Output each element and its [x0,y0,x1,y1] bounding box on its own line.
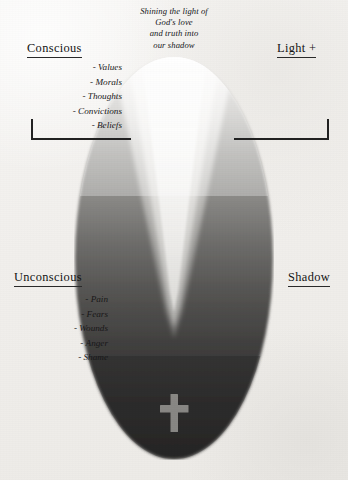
heading-light-label: Light + [277,41,316,58]
bracket-right [234,119,329,141]
heading-unconscious: Unconscious [14,270,82,287]
caption-line-3: and truth into [106,28,242,39]
heading-unconscious-label: Unconscious [14,270,82,287]
list-item: - Shame [0,350,108,365]
list-item: - Pain [0,292,108,307]
caption-block: Shining the light of God's love and trut… [106,6,242,51]
heading-shadow: Shadow [288,270,330,287]
caption-line-4: our shadow [106,40,242,51]
list-item: - Morals [0,75,122,90]
bracket-left-horizontal [31,138,131,140]
bracket-left-vertical [31,119,33,140]
list-item: - Convictions [0,104,122,119]
list-item: - Anger [0,336,108,351]
heading-conscious: Conscious [27,41,82,58]
unconscious-traits-list: - Pain - Fears - Wounds - Anger - Shame [0,292,110,365]
list-item: - Wounds [0,321,108,336]
caption-line-2: God's love [106,17,242,28]
list-item: - Fears [0,307,108,322]
list-item: - Values [0,60,122,75]
heading-shadow-label: Shadow [288,270,330,287]
list-item: - Thoughts [0,89,122,104]
diagram-page: Shining the light of God's love and trut… [0,0,348,480]
caption-line-1: Shining the light of [106,6,242,17]
bracket-left [31,119,131,141]
bracket-right-horizontal [234,138,329,140]
heading-light: Light + [277,41,316,58]
heading-conscious-label: Conscious [27,41,82,58]
bracket-right-vertical [327,119,329,140]
